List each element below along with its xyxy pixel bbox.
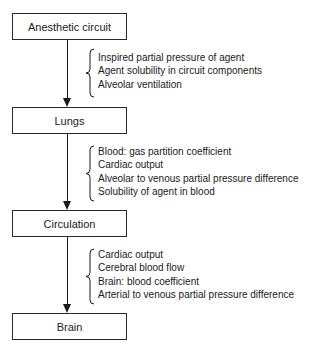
factor-item: Blood: gas partition coefficient <box>98 145 298 158</box>
node-label: Circulation <box>44 218 96 230</box>
factor-item: Inspired partial pressure of agent <box>98 51 262 64</box>
arrow-line-circuit-to-lungs <box>67 40 68 100</box>
factor-item: Cerebral blood flow <box>98 261 294 274</box>
arrow-head-icon <box>63 201 71 210</box>
node-label: Lungs <box>55 115 85 127</box>
factor-list-circuit-to-lungs: Inspired partial pressure of agent Agent… <box>98 51 262 91</box>
node-brain: Brain <box>12 313 127 340</box>
factor-item: Cardiac output <box>98 158 298 171</box>
arrow-head-icon <box>63 304 71 313</box>
factor-item: Alveolar to venous partial pressure diff… <box>98 172 298 185</box>
arrow-line-lungs-to-circulation <box>67 134 68 203</box>
factor-item: Arterial to venous partial pressure diff… <box>98 288 294 301</box>
factor-item: Alveolar ventilation <box>98 78 262 91</box>
factor-item: Cardiac output <box>98 248 294 261</box>
node-anesthetic-circuit: Anesthetic circuit <box>12 13 127 40</box>
factor-item: Solubility of agent in blood <box>98 185 298 198</box>
brace-icon <box>84 248 96 305</box>
node-lungs: Lungs <box>12 107 127 134</box>
factor-list-lungs-to-circulation: Blood: gas partition coefficient Cardiac… <box>98 145 298 198</box>
brace-icon <box>84 48 96 98</box>
node-label: Brain <box>57 321 83 333</box>
factor-list-circulation-to-brain: Cardiac output Cerebral blood flow Brain… <box>98 248 294 301</box>
node-label: Anesthetic circuit <box>28 21 111 33</box>
arrow-line-circulation-to-brain <box>67 237 68 306</box>
factor-item: Agent solubility in circuit components <box>98 64 262 77</box>
factor-item: Brain: blood coefficient <box>98 275 294 288</box>
arrow-head-icon <box>63 98 71 107</box>
brace-icon <box>84 145 96 202</box>
node-circulation: Circulation <box>12 210 127 237</box>
